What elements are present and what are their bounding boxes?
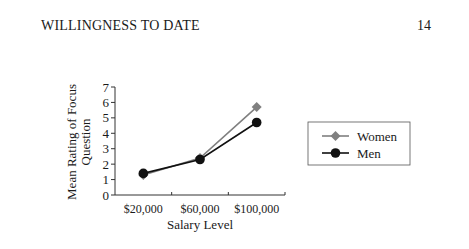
x-axis-title: Salary Level xyxy=(167,217,233,232)
legend-label: Women xyxy=(357,129,398,144)
y-tick-label: 5 xyxy=(103,110,110,125)
y-axis-title-line2: Question xyxy=(78,118,93,165)
series-women xyxy=(138,102,261,180)
x-tick-label: $100,000 xyxy=(234,202,279,216)
circle-marker xyxy=(252,118,262,128)
y-axis-ticks: 01234567 xyxy=(103,80,116,203)
series-men xyxy=(139,118,262,179)
y-tick-label: 7 xyxy=(103,80,110,95)
circle-marker xyxy=(139,169,149,179)
y-tick-label: 1 xyxy=(103,172,110,187)
series-line xyxy=(143,107,256,175)
legend: WomenMen xyxy=(308,122,410,165)
line-chart: Mean Rating of Focus Question 01234567 $… xyxy=(0,0,469,249)
circle-marker xyxy=(195,155,205,165)
x-tick-label: $20,000 xyxy=(124,202,163,216)
legend-label: Men xyxy=(357,146,381,161)
y-axis-title-line1: Mean Rating of Focus xyxy=(64,84,79,200)
series-layer xyxy=(138,102,261,180)
y-tick-label: 6 xyxy=(103,95,110,110)
series-line xyxy=(143,122,256,173)
x-axis-labels: $20,000$60,000$100,000 xyxy=(124,202,279,216)
y-tick-label: 2 xyxy=(103,157,110,172)
y-axis-title: Mean Rating of Focus Question xyxy=(64,84,93,200)
y-tick-label: 3 xyxy=(103,141,110,156)
y-tick-label: 4 xyxy=(103,126,110,141)
y-tick-label: 0 xyxy=(103,188,110,203)
legend-circle-icon xyxy=(331,148,341,158)
x-tick-label: $60,000 xyxy=(181,202,220,216)
